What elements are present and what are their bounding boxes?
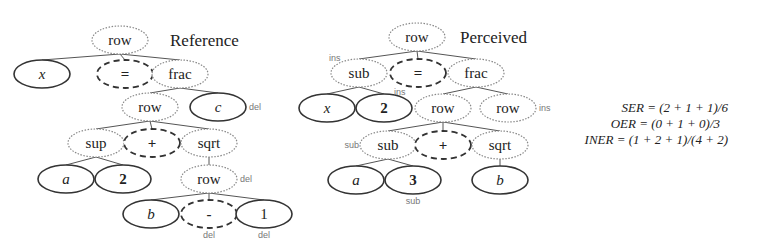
reference-node-r_1: 1del bbox=[236, 200, 292, 240]
perceived-node-p_sub1: subsub bbox=[344, 131, 416, 159]
node-label: frac bbox=[168, 66, 192, 82]
reference-node-r_a: a bbox=[38, 165, 94, 193]
perceived-node-p_eq: = bbox=[390, 59, 446, 87]
reference-node-r_row1: row bbox=[122, 93, 178, 121]
annotation-ins: ins bbox=[539, 103, 551, 113]
node-label: sub bbox=[378, 137, 399, 153]
annotation-del: del bbox=[258, 230, 270, 240]
annotation-sub: sub bbox=[406, 196, 421, 206]
reference-edge bbox=[209, 193, 264, 200]
reference-edge bbox=[151, 193, 209, 200]
node-label: 2 bbox=[119, 171, 127, 187]
node-label: a bbox=[352, 172, 360, 188]
perceived-edge bbox=[417, 51, 418, 59]
reference-node-r_minus: -del bbox=[181, 200, 237, 240]
perceived-edge bbox=[327, 87, 359, 94]
metric-oer: OER = (0 + 1 + 0)/3 bbox=[560, 116, 720, 132]
perceived-node-p_sub0: subins bbox=[329, 53, 387, 87]
node-label: row bbox=[138, 99, 161, 115]
perceived-node-p_plus: + bbox=[415, 131, 471, 159]
node-label: b bbox=[147, 206, 155, 222]
node-label: x bbox=[323, 100, 331, 116]
node-label: b bbox=[496, 172, 504, 188]
perceived-edge bbox=[443, 87, 476, 94]
perceived-node-p_a: a bbox=[328, 166, 384, 194]
perceived-node-p_2: 2ins bbox=[356, 87, 412, 122]
reference-node-r_2: 2 bbox=[95, 165, 151, 193]
node-label: + bbox=[148, 135, 157, 151]
node-label: frac bbox=[464, 65, 488, 81]
reference-edge bbox=[120, 54, 180, 60]
annotation-del: del bbox=[249, 102, 261, 112]
node-label: = bbox=[121, 66, 130, 82]
reference-edge bbox=[150, 121, 152, 129]
node-label: sqrt bbox=[489, 137, 512, 153]
reference-node-r_sqrt: sqrt bbox=[181, 129, 237, 157]
node-label: row bbox=[405, 29, 428, 45]
reference-node-r_plus: + bbox=[124, 129, 180, 157]
perceived-edge bbox=[388, 159, 413, 166]
node-label: row bbox=[431, 100, 454, 116]
reference-edge bbox=[180, 88, 218, 93]
reference-node-r_sup: sup bbox=[68, 129, 124, 157]
reference-edge bbox=[66, 157, 96, 165]
perceived-node-p_x: x bbox=[299, 94, 355, 122]
node-label: 2 bbox=[380, 100, 388, 116]
node-label: a bbox=[62, 171, 70, 187]
perceived-node-p_row0: row bbox=[389, 23, 445, 51]
reference-edge bbox=[150, 121, 209, 129]
perceived-edge bbox=[359, 51, 417, 59]
node-label: x bbox=[38, 66, 46, 82]
reference-node-r_row2: rowdel bbox=[181, 165, 252, 193]
annotation-ins: ins bbox=[394, 87, 406, 97]
node-label: sqrt bbox=[198, 135, 221, 151]
reference-node-r_frac: frac bbox=[152, 60, 208, 88]
annotation-ins: ins bbox=[329, 53, 341, 63]
reference-node-r_b: b bbox=[123, 200, 179, 228]
node-label: row bbox=[197, 171, 220, 187]
perceived-node-p_row1: row bbox=[415, 94, 471, 122]
reference-title: Reference bbox=[170, 31, 239, 50]
perceived-node-p_row_ins: rowins bbox=[480, 94, 551, 122]
reference-node-r_row0: row bbox=[92, 26, 148, 54]
perceived-node-p_b: b bbox=[472, 166, 528, 194]
reference-node-r_c: cdel bbox=[190, 93, 261, 121]
node-label: row bbox=[496, 100, 519, 116]
node-label: + bbox=[439, 137, 448, 153]
node-label: row bbox=[108, 32, 131, 48]
reference-edge bbox=[150, 88, 180, 93]
perceived-edge bbox=[417, 51, 476, 59]
perceived-edge bbox=[388, 122, 443, 131]
node-label: c bbox=[215, 99, 222, 115]
node-label: sup bbox=[86, 135, 107, 151]
reference-edge bbox=[96, 121, 150, 129]
perceived-edge bbox=[356, 159, 388, 166]
perceived-edge bbox=[443, 122, 500, 131]
perceived-edge bbox=[476, 87, 508, 94]
node-label: = bbox=[414, 65, 423, 81]
perceived-node-p_frac: frac bbox=[448, 59, 504, 87]
metric-iner: INER = (1 + 2 + 1)/(4 + 2) bbox=[540, 132, 728, 148]
node-label: sub bbox=[349, 65, 370, 81]
perceived-node-p_3: 3sub bbox=[385, 166, 441, 206]
node-label: 1 bbox=[260, 206, 268, 222]
node-label: 3 bbox=[409, 172, 417, 188]
annotation-sub: sub bbox=[344, 140, 359, 150]
reference-edge bbox=[96, 157, 123, 165]
annotation-del: del bbox=[203, 230, 215, 240]
node-label: - bbox=[207, 206, 212, 222]
perceived-edge bbox=[359, 87, 384, 94]
reference-edge bbox=[42, 54, 120, 60]
metric-ser: SER = (2 + 1 + 1)/6 bbox=[560, 100, 728, 116]
perceived-title: Perceived bbox=[460, 28, 528, 47]
annotation-del: del bbox=[240, 174, 252, 184]
perceived-node-p_sqrt: sqrt bbox=[472, 131, 528, 159]
reference-node-r_eq: = bbox=[97, 60, 153, 88]
reference-node-r_x: x bbox=[14, 60, 70, 88]
